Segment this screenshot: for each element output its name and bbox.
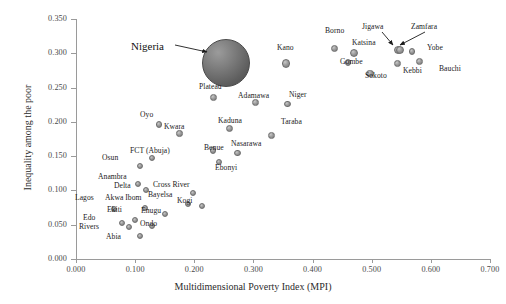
y-tick-mark bbox=[71, 190, 76, 191]
data-point[interactable] bbox=[137, 233, 143, 239]
point-label: Kano bbox=[277, 43, 294, 52]
point-label: Yobe bbox=[427, 43, 443, 52]
data-point[interactable] bbox=[135, 181, 141, 187]
y-tick-mark bbox=[71, 88, 76, 89]
point-label: Ebonyi bbox=[215, 163, 237, 172]
data-point[interactable] bbox=[156, 121, 162, 127]
x-tick-mark bbox=[431, 259, 432, 263]
data-point[interactable] bbox=[396, 46, 404, 54]
y-axis-title: Inequality among the poor bbox=[22, 28, 33, 248]
data-point[interactable] bbox=[137, 163, 143, 169]
data-point[interactable] bbox=[331, 45, 338, 52]
scatter-chart: 0.0000.0500.1000.1500.2000.2500.3000.350… bbox=[0, 0, 506, 304]
data-point[interactable] bbox=[234, 150, 240, 156]
point-label: Lagos bbox=[75, 193, 94, 202]
jigawa-arrow bbox=[382, 32, 393, 45]
x-tick-label: 0.000 bbox=[56, 265, 96, 274]
point-label: Nasarawa bbox=[231, 139, 261, 148]
point-label: Bauchi bbox=[439, 64, 461, 73]
x-tick-mark bbox=[372, 259, 373, 263]
point-label: Anambra bbox=[98, 172, 127, 181]
point-label: Edo bbox=[83, 213, 95, 222]
y-tick-label: 0.350 bbox=[33, 14, 67, 23]
x-tick-label: 0.200 bbox=[174, 265, 214, 274]
data-point[interactable] bbox=[210, 94, 217, 101]
x-tick-label: 0.600 bbox=[411, 265, 451, 274]
x-tick-label: 0.700 bbox=[470, 265, 506, 274]
point-label: Bayelsa bbox=[148, 190, 172, 199]
y-tick-mark bbox=[71, 53, 76, 54]
x-tick-mark bbox=[135, 259, 136, 263]
point-label: Jigawa bbox=[362, 22, 383, 31]
data-point[interactable] bbox=[119, 220, 125, 226]
data-point[interactable] bbox=[226, 125, 233, 132]
y-tick-mark bbox=[71, 19, 76, 20]
y-tick-mark bbox=[71, 122, 76, 123]
point-label: Zamfara bbox=[411, 22, 437, 31]
y-tick-label: 0.250 bbox=[33, 83, 67, 92]
data-point[interactable] bbox=[149, 155, 155, 161]
x-tick-mark bbox=[253, 259, 254, 263]
x-tick-mark bbox=[490, 259, 491, 263]
x-tick-label: 0.300 bbox=[233, 265, 273, 274]
point-label: Ekiti bbox=[107, 205, 122, 214]
point-label: Plateau bbox=[199, 82, 222, 91]
x-tick-mark bbox=[76, 259, 77, 263]
point-label: Kebbi bbox=[403, 66, 422, 75]
point-label: Katsina bbox=[352, 38, 376, 47]
data-point[interactable] bbox=[162, 211, 168, 217]
point-label: Cross River bbox=[153, 180, 190, 189]
zamfara-arrow bbox=[400, 32, 425, 45]
x-tick-label: 0.400 bbox=[293, 265, 333, 274]
point-label: Enugu bbox=[141, 206, 161, 215]
point-label: Kogi bbox=[177, 196, 192, 205]
data-point[interactable] bbox=[284, 101, 291, 108]
point-label: Delta bbox=[114, 181, 131, 190]
point-label: Ondo bbox=[140, 219, 157, 228]
point-label: Gombe bbox=[340, 57, 363, 66]
y-tick-label: 0.200 bbox=[33, 117, 67, 126]
data-point[interactable] bbox=[199, 203, 205, 209]
y-tick-label: 0.100 bbox=[33, 185, 67, 194]
data-point[interactable] bbox=[132, 217, 138, 223]
nigeria-data-point[interactable] bbox=[202, 39, 250, 87]
y-tick-label: 0.150 bbox=[33, 151, 67, 160]
point-label: Nigeria bbox=[131, 40, 164, 52]
x-tick-mark bbox=[194, 259, 195, 263]
data-point[interactable] bbox=[416, 58, 423, 65]
x-axis-title: Multidimensional Poverty Index (MPI) bbox=[0, 281, 506, 292]
point-label: FCT (Abuja) bbox=[130, 146, 170, 155]
data-point[interactable] bbox=[409, 48, 416, 55]
nigeria-arrow bbox=[175, 45, 207, 52]
point-label: Benue bbox=[204, 143, 224, 152]
y-tick-label: 0.050 bbox=[33, 220, 67, 229]
data-point[interactable] bbox=[176, 130, 182, 136]
y-tick-label: 0.000 bbox=[33, 254, 67, 263]
point-label: Niger bbox=[289, 90, 307, 99]
point-label: Akwa Ibom bbox=[105, 193, 142, 202]
y-axis-line bbox=[76, 19, 77, 259]
data-point[interactable] bbox=[252, 99, 259, 106]
y-tick-mark bbox=[71, 225, 76, 226]
point-label: Sokoto bbox=[365, 71, 387, 80]
point-label: Abia bbox=[106, 232, 121, 241]
point-label: Adamawa bbox=[238, 91, 269, 100]
data-point[interactable] bbox=[394, 60, 401, 67]
point-label: Oyo bbox=[140, 110, 153, 119]
point-label: Rivers bbox=[79, 222, 99, 231]
x-tick-label: 0.100 bbox=[115, 265, 155, 274]
point-label: Kwara bbox=[164, 122, 185, 131]
point-label: Taraba bbox=[281, 117, 302, 126]
data-point[interactable] bbox=[126, 224, 132, 230]
point-label: Borno bbox=[325, 26, 344, 35]
point-label: Kaduna bbox=[218, 116, 242, 125]
data-point[interactable] bbox=[268, 132, 275, 139]
x-tick-mark bbox=[313, 259, 314, 263]
y-tick-mark bbox=[71, 156, 76, 157]
point-label: Osun bbox=[102, 153, 118, 162]
y-tick-label: 0.300 bbox=[33, 48, 67, 57]
x-axis-line bbox=[76, 259, 490, 260]
x-tick-label: 0.500 bbox=[352, 265, 392, 274]
data-point[interactable] bbox=[282, 59, 290, 67]
